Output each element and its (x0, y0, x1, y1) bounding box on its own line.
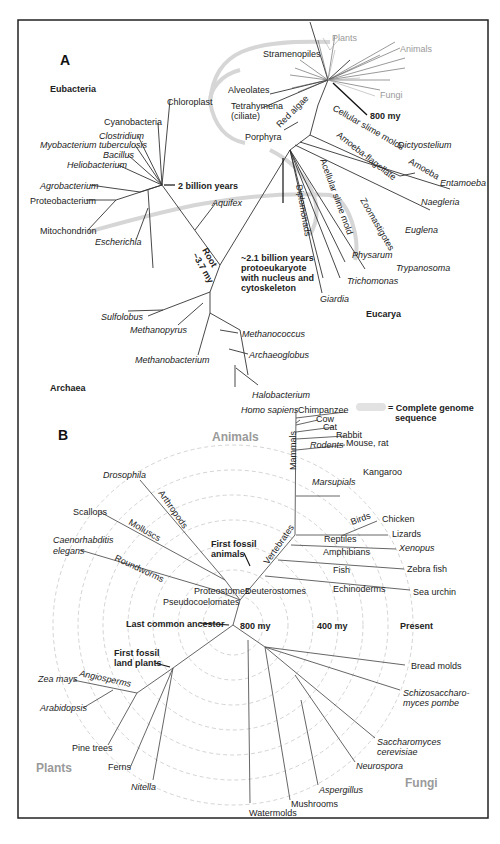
svg-text:animals: animals (211, 549, 245, 559)
svg-text:2 billion years: 2 billion years (178, 181, 238, 191)
svg-text:Deuterostomes: Deuterostomes (245, 586, 307, 596)
svg-text:Ferns: Ferns (108, 762, 132, 772)
svg-text:Mushrooms: Mushrooms (291, 799, 339, 809)
svg-text:Sulfolobus: Sulfolobus (101, 312, 144, 322)
svg-text:Tetrahymena: Tetrahymena (231, 101, 283, 111)
svg-text:Schizosaccharo-: Schizosaccharo- (403, 688, 470, 698)
svg-text:Fish: Fish (333, 565, 350, 575)
svg-text:cerevisiae: cerevisiae (377, 747, 418, 757)
svg-text:Rodents: Rodents (310, 440, 344, 450)
svg-text:800 my: 800 my (370, 111, 401, 121)
svg-text:Mitochondrion: Mitochondrion (40, 226, 97, 236)
svg-text:with nucleus and: with nucleus and (240, 273, 314, 283)
svg-text:protoeukaryote: protoeukaryote (241, 263, 307, 273)
svg-text:Trypanosoma: Trypanosoma (396, 263, 450, 273)
svg-text:Sea urchin: Sea urchin (413, 587, 456, 597)
legend-label: = Complete genome (388, 403, 474, 413)
svg-text:Present: Present (400, 621, 433, 631)
tree-b-branches (73, 410, 410, 803)
svg-text:Vertebrates: Vertebrates (261, 522, 296, 566)
panel-b-label: B (58, 427, 68, 443)
svg-text:cytoskeleton: cytoskeleton (241, 283, 296, 293)
svg-text:Chicken: Chicken (382, 514, 415, 524)
svg-text:myces pombe: myces pombe (403, 698, 459, 708)
svg-text:First fossil: First fossil (211, 539, 257, 549)
svg-text:Chloroplast: Chloroplast (167, 97, 213, 107)
svg-text:Zebra fish: Zebra fish (407, 564, 447, 574)
svg-text:Pseudocoelomates: Pseudocoelomates (163, 597, 240, 607)
svg-text:Escherichia: Escherichia (95, 237, 142, 247)
svg-text:Euglena: Euglena (405, 225, 438, 235)
svg-text:Caenorhabditis: Caenorhabditis (53, 535, 114, 545)
svg-text:elegans: elegans (53, 546, 85, 556)
svg-text:Xenopus: Xenopus (398, 543, 435, 553)
svg-text:Last common ancestor: Last common ancestor (126, 619, 225, 629)
group-animals: Animals (212, 430, 259, 444)
svg-text:Amphibians: Amphibians (323, 547, 371, 557)
svg-text:Methanopyrus: Methanopyrus (130, 325, 188, 335)
svg-text:Zoomastigotes: Zoomastigotes (358, 196, 396, 253)
svg-text:800 my: 800 my (240, 621, 271, 631)
group-plants: Plants (36, 761, 72, 775)
svg-text:Zea mays: Zea mays (37, 674, 78, 684)
svg-text:Myobacterium tuberculosis: Myobacterium tuberculosis (40, 140, 148, 150)
legend-swatch (356, 403, 386, 411)
svg-text:Heliobacterium: Heliobacterium (67, 160, 128, 170)
svg-text:~2.1 billion years: ~2.1 billion years (241, 253, 314, 263)
svg-text:Arabidopsis: Arabidopsis (39, 703, 88, 713)
svg-text:Animals: Animals (400, 44, 433, 54)
svg-text:Proteostomes: Proteostomes (194, 586, 250, 596)
svg-text:Cyanobacteria: Cyanobacteria (104, 117, 162, 127)
svg-text:Dictyostelium: Dictyostelium (398, 140, 452, 150)
svg-text:Entamoeba: Entamoeba (440, 178, 486, 188)
svg-text:Saccharomyces: Saccharomyces (377, 737, 442, 747)
phylogeny-figure: A Eubacteria Archaea Eucarya (0, 0, 500, 844)
svg-text:400 my: 400 my (317, 621, 348, 631)
svg-text:Kangaroo: Kangaroo (363, 467, 402, 477)
arrow-fossil-animals (244, 553, 250, 566)
svg-text:Aspergillus: Aspergillus (318, 785, 364, 795)
panel-a-labels: Chloroplast Cyanobacteria Clostridium My… (30, 33, 486, 400)
group-fungi: Fungi (405, 776, 438, 790)
domain-eubacteria: Eubacteria (50, 84, 97, 94)
svg-text:Amoeba: Amoeba (407, 156, 441, 181)
svg-text:Roundworms: Roundworms (113, 553, 166, 585)
svg-text:Trichomonas: Trichomonas (347, 276, 399, 286)
svg-text:Pine trees: Pine trees (72, 743, 113, 753)
svg-text:Alveolates: Alveolates (228, 85, 270, 95)
svg-text:Red algae: Red algae (274, 93, 310, 129)
svg-text:Reptiles: Reptiles (324, 534, 357, 544)
svg-text:Arthropods: Arthropods (156, 488, 190, 530)
svg-text:Marsupials: Marsupials (312, 477, 356, 487)
svg-text:Plants: Plants (332, 33, 358, 43)
svg-text:Mammals: Mammals (288, 430, 298, 470)
svg-text:land plants: land plants (114, 658, 162, 668)
panel-b-labels: Homo sapiens Chimpanzee Cow Cat Rabbit M… (37, 405, 470, 818)
svg-text:Naegleria: Naegleria (421, 197, 460, 207)
svg-text:(ciliate): (ciliate) (231, 111, 260, 121)
svg-text:Stramenopiles: Stramenopiles (263, 49, 321, 59)
svg-text:Nitella: Nitella (131, 782, 156, 792)
svg-text:Angiosperms: Angiosperms (78, 668, 133, 689)
svg-text:Lizards: Lizards (392, 529, 422, 539)
svg-text:First fossil: First fossil (114, 648, 160, 658)
svg-text:Physarum: Physarum (352, 250, 393, 260)
svg-text:Giardia: Giardia (320, 294, 349, 304)
svg-text:Methanobacterium: Methanobacterium (135, 355, 210, 365)
domain-eucarya: Eucarya (366, 309, 402, 319)
svg-text:Archaeoglobus: Archaeoglobus (248, 350, 310, 360)
svg-text:Molluscs: Molluscs (127, 517, 163, 543)
svg-text:Agrobacterium: Agrobacterium (39, 181, 99, 191)
domain-archaea: Archaea (50, 383, 87, 393)
svg-text:Aquifex: Aquifex (211, 198, 243, 208)
svg-text:Neurospora: Neurospora (356, 761, 403, 771)
svg-text:Homo sapiens: Homo sapiens (241, 405, 299, 415)
svg-text:Echinoderms: Echinoderms (333, 584, 386, 594)
svg-text:Methanococcus: Methanococcus (242, 329, 306, 339)
svg-text:Porphyra: Porphyra (245, 132, 282, 142)
panel-a-label: A (60, 52, 70, 68)
svg-text:Watermolds: Watermolds (249, 808, 297, 818)
svg-text:Fungi: Fungi (380, 90, 403, 100)
svg-text:Bread molds: Bread molds (411, 661, 462, 671)
svg-text:Bacillus: Bacillus (103, 150, 135, 160)
